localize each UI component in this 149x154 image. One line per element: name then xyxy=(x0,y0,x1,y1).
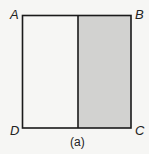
figure-caption: (a) xyxy=(70,136,85,148)
square-diagram xyxy=(0,0,149,154)
vertex-label-c: C xyxy=(135,124,144,137)
vertex-label-b: B xyxy=(135,8,144,21)
vertex-label-a: A xyxy=(10,8,19,21)
shaded-half xyxy=(78,16,131,129)
vertex-label-d: D xyxy=(10,124,19,137)
